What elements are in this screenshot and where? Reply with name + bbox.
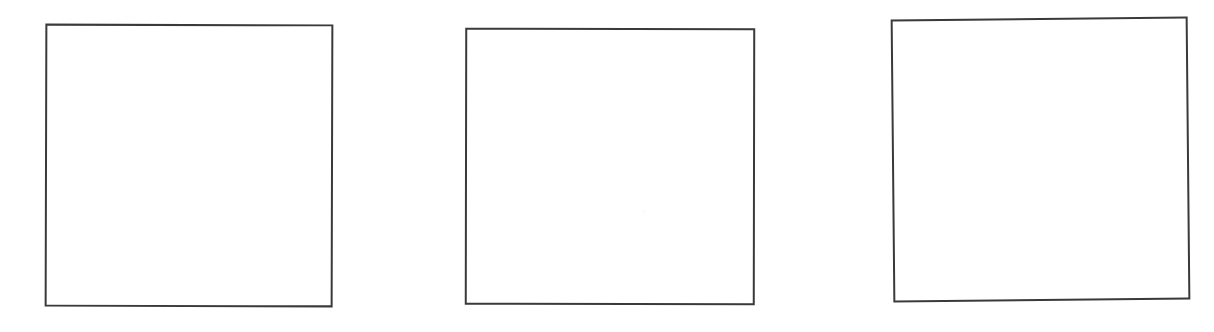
blank-panel-2 xyxy=(465,28,755,306)
scan-speckle-artifact xyxy=(643,210,646,213)
blank-panel-3 xyxy=(891,17,1191,303)
panel-3-interior xyxy=(893,19,1189,301)
blank-panel-1 xyxy=(45,24,334,308)
panel-2-interior xyxy=(467,30,753,303)
figure-canvas xyxy=(0,0,1214,332)
panel-1-interior xyxy=(47,26,332,306)
